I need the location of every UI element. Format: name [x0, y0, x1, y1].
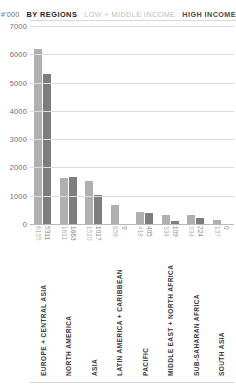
bar-value-label-high: 5311	[44, 226, 51, 240]
legend-item-low-middle-income: LOW + MIDDLE INCOME	[84, 10, 175, 19]
value-label-group: 15101017	[81, 226, 107, 262]
bar-value-label-low: 1611	[60, 226, 67, 240]
bar-low[interactable]	[111, 205, 119, 224]
gridline	[30, 26, 234, 27]
value-label-cell: 1663	[69, 226, 77, 262]
gridline	[30, 139, 234, 140]
bar-low[interactable]	[187, 215, 195, 224]
x-axis-category-label: MIDDLE EAST + NORTH AFRICA	[167, 265, 174, 376]
bar-value-label-high: 9	[120, 226, 127, 230]
y-axis: 01000200030004000500060007000	[0, 26, 30, 224]
bar-groups	[30, 26, 234, 224]
value-label-group: 418405	[132, 226, 158, 262]
gridline	[30, 111, 234, 112]
bar-high[interactable]	[43, 74, 51, 224]
bar-group	[81, 26, 107, 224]
bar-high[interactable]	[69, 177, 77, 224]
value-label-group: 61955311	[30, 226, 56, 262]
bar-value-label-low: 137	[213, 226, 220, 237]
y-axis-tick-label: 2000	[10, 163, 27, 172]
value-label-cell: 9	[120, 226, 128, 262]
bar-value-label-high: 405	[146, 226, 153, 237]
x-axis-category-label: ASIA	[90, 359, 97, 376]
value-label-cell: 5311	[43, 226, 51, 262]
x-axis-category: PACIFIC	[132, 264, 158, 376]
value-label-cell: 1611	[60, 226, 68, 262]
value-label-cell: 0	[222, 226, 230, 262]
value-label-group: 334224	[183, 226, 209, 262]
value-label-group: 16111663	[56, 226, 82, 262]
bar-value-label-high: 224	[197, 226, 204, 237]
bar-low[interactable]	[85, 181, 93, 224]
header-strip: BY REGIONS LOW + MIDDLE INCOME HIGH INCO…	[27, 10, 236, 20]
bar-high[interactable]	[145, 213, 153, 224]
bar-value-label-high: 1017	[95, 226, 102, 241]
x-axis-category-label: SOUTH ASIA	[218, 332, 225, 376]
x-axis-category: ASIA	[81, 264, 107, 376]
value-label-cell: 418	[136, 226, 144, 262]
bar-group	[30, 26, 56, 224]
gridline	[30, 54, 234, 55]
bar-low[interactable]	[34, 49, 42, 224]
bar-value-label-high: 109	[171, 226, 178, 237]
y-axis-unit-label: #'000	[0, 10, 27, 20]
bar-value-label-low: 658	[111, 226, 118, 237]
value-labels: 6195531116111663151010176589418405334109…	[30, 226, 234, 262]
value-label-cell: 658	[111, 226, 119, 262]
chart-title: BY REGIONS	[27, 10, 78, 19]
bar-group	[209, 26, 235, 224]
x-axis-category: MIDDLE EAST + NORTH AFRICA	[158, 264, 184, 376]
x-axis-category-label: NORTH AMERICA	[65, 316, 72, 376]
bar-low[interactable]	[162, 215, 170, 224]
bar-value-label-low: 1510	[86, 226, 93, 241]
value-label-cell: 109	[171, 226, 179, 262]
x-axis-category: SOUTH ASIA	[209, 264, 235, 376]
bar-low[interactable]	[60, 178, 68, 224]
value-label-group: 334109	[158, 226, 184, 262]
x-axis-category-label: LATIN AMERICA + CARIBBEAN	[116, 269, 123, 376]
y-axis-tick-label: 3000	[10, 135, 27, 144]
bar-group	[183, 26, 209, 224]
bar-value-label-low: 6195	[35, 226, 42, 241]
value-label-group: 6589	[107, 226, 133, 262]
bar-value-label-high: 1663	[69, 226, 76, 241]
x-axis-category-labels: EUROPE + CENTRAL ASIANORTH AMERICAASIALA…	[30, 264, 234, 376]
bar-value-label-low: 334	[188, 226, 195, 237]
x-axis-category-label: EUROPE + CENTRAL ASIA	[39, 285, 46, 376]
value-label-cell: 1510	[85, 226, 93, 262]
value-label-cell: 405	[145, 226, 153, 262]
bar-group	[107, 26, 133, 224]
chart-page: #'000 BY REGIONS LOW + MIDDLE INCOME HIG…	[0, 0, 236, 390]
plot-area: 01000200030004000500060007000	[0, 26, 236, 224]
bar-group	[132, 26, 158, 224]
bar-group	[56, 26, 82, 224]
x-axis-category-label: PACIFIC	[141, 348, 148, 376]
gridline	[30, 167, 234, 168]
x-axis-category: EUROPE + CENTRAL ASIA	[30, 264, 56, 376]
value-label-cell: 224	[196, 226, 204, 262]
legend-item-high-income: HIGH INCOME	[182, 10, 236, 19]
y-axis-tick-label: 0	[23, 220, 27, 229]
value-label-cell: 6195	[34, 226, 42, 262]
y-axis-tick-label: 4000	[10, 106, 27, 115]
bar-value-label-low: 334	[162, 226, 169, 237]
x-axis-category: SUB-SAHARAN AFRICA	[183, 264, 209, 376]
bar-value-label-high: 0	[222, 226, 229, 230]
y-axis-tick-label: 5000	[10, 78, 27, 87]
value-label-group: 1370	[209, 226, 235, 262]
y-axis-tick-label: 1000	[10, 191, 27, 200]
value-label-cell: 137	[213, 226, 221, 262]
bar-low[interactable]	[136, 212, 144, 224]
bar-high[interactable]	[94, 195, 102, 224]
x-axis-category: NORTH AMERICA	[56, 264, 82, 376]
bar-value-label-low: 418	[137, 226, 144, 237]
bar-group	[158, 26, 184, 224]
value-label-cell: 334	[162, 226, 170, 262]
footer-divider	[30, 382, 234, 383]
value-label-cell: 1017	[94, 226, 102, 262]
x-axis-category: LATIN AMERICA + CARIBBEAN	[107, 264, 133, 376]
header-divider	[30, 20, 236, 21]
y-axis-tick-label: 7000	[10, 22, 27, 31]
chart-header: #'000 BY REGIONS LOW + MIDDLE INCOME HIG…	[0, 0, 236, 20]
value-label-cell: 334	[187, 226, 195, 262]
